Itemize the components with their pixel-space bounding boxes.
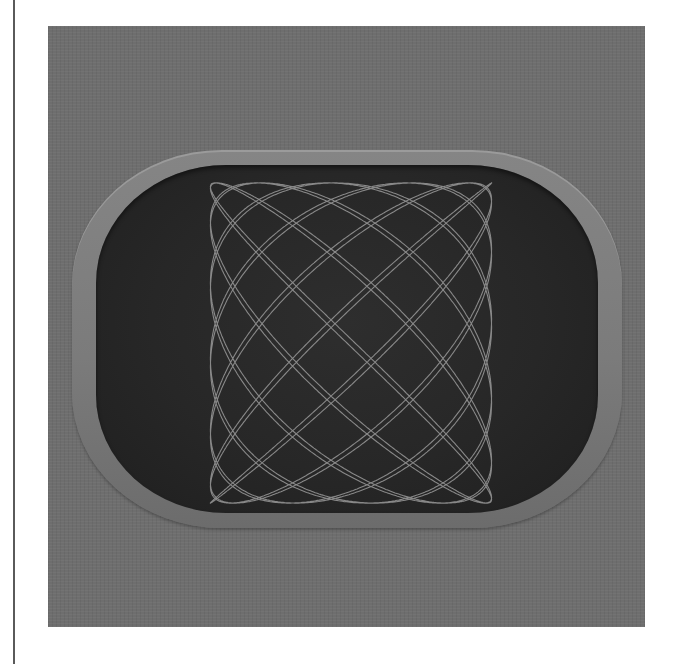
crt-screen bbox=[96, 165, 598, 513]
lissajous-trace bbox=[96, 165, 598, 513]
left-margin-rule bbox=[13, 0, 15, 664]
